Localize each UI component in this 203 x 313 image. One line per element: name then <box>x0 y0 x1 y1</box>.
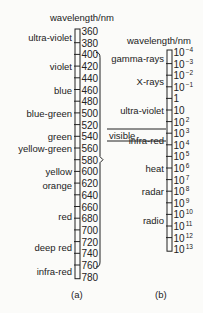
scale-a-tick-label: 500 <box>82 108 99 119</box>
scale-b-tick-label: 1 <box>174 93 180 104</box>
scale-a-tick-label: 400 <box>82 49 99 60</box>
scale-b-tick-label: 104 <box>174 139 190 151</box>
scale-b: 10−410−310−210−1110102103104105106107108… <box>111 46 193 255</box>
scale-b-tick-label: 10−2 <box>174 69 194 81</box>
scale-a-band-label: blue <box>54 85 72 96</box>
scale-b-tick-label: 102 <box>174 116 190 128</box>
spectrum-diagram: wavelength/nm wavelength/nm (a) (b) visi… <box>0 0 203 313</box>
scale-b-caption: (b) <box>155 289 167 300</box>
scale-a-tick-label: 680 <box>82 213 99 224</box>
scale-a-band-label: violet <box>50 61 73 72</box>
scale-a-tick-label: 360 <box>82 26 99 37</box>
scale-a-tick-label: 560 <box>82 143 99 154</box>
scale-b-band-label: radar <box>142 186 164 197</box>
scale-a-tick-label: 660 <box>82 202 99 213</box>
scale-b-tick-label: 103 <box>174 127 190 139</box>
scale-b-tick-label: 10−3 <box>174 58 194 70</box>
scale-b-band-label: X-rays <box>137 76 165 87</box>
scale-b-tick-label: 109 <box>174 197 190 209</box>
scale-a-band-label: deep red <box>34 242 72 253</box>
scale-a-tick-label: 720 <box>82 237 99 248</box>
scale-b-tick-label: 10−4 <box>174 46 194 58</box>
scale-b-tick-label: 105 <box>174 150 190 162</box>
scale-a-tick-label: 760 <box>82 260 99 271</box>
scale-a-tick-label: 600 <box>82 166 99 177</box>
scale-a-band-label: orange <box>42 180 72 191</box>
scale-a-tick-label: 620 <box>82 178 99 189</box>
scale-a-tick-label: 480 <box>82 96 99 107</box>
scale-a-caption: (a) <box>71 289 83 300</box>
scale-b-band-label: radio <box>143 215 164 226</box>
scale-b-tick-label: 106 <box>174 162 190 174</box>
scale-a-tick-label: 740 <box>82 248 99 259</box>
scale-a-tick-label: 440 <box>82 73 99 84</box>
scale-a-band-label: red <box>58 211 72 222</box>
scale-b-band-label: gamma-rays <box>111 53 164 64</box>
scale-a-band-label: infra-red <box>37 266 72 277</box>
scale-b-tick-label: 1010 <box>174 208 194 220</box>
scale-a-tick-label: 580 <box>82 155 99 166</box>
scale-b-band-label: heat <box>146 163 165 174</box>
scale-a-tick-label: 380 <box>82 38 99 49</box>
scale-a-tick-label: 460 <box>82 85 99 96</box>
scale-a-heading: wavelength/nm <box>49 12 114 23</box>
scale-b-tick-label: 10−1 <box>174 81 194 93</box>
scale-a-band-label: green <box>48 131 72 142</box>
scale-a-tick-label: 780 <box>82 272 99 283</box>
scale-a-tick-label: 640 <box>82 190 99 201</box>
scale-b-ladder <box>167 50 172 251</box>
scale-a-band-label: yellow <box>46 166 73 177</box>
scale-a-band-label: ultra-violet <box>28 32 72 43</box>
scale-a-tick-label: 700 <box>82 225 99 236</box>
scale-a-tick-label: 420 <box>82 61 99 72</box>
scale-b-tick-label: 1013 <box>174 243 194 255</box>
scale-b-band-label: ultra-violet <box>120 105 164 116</box>
scale-b-tick-label: 108 <box>174 185 190 197</box>
scale-b-tick-label: 107 <box>174 174 190 186</box>
scale-a-tick-label: 520 <box>82 120 99 131</box>
scale-a: 3603804004204404604805005205405605806006… <box>18 26 103 283</box>
scale-a-band-label: blue-green <box>27 108 72 119</box>
scale-b-tick-label: 10 <box>174 105 186 116</box>
scale-a-band-label: yellow-green <box>18 143 72 154</box>
scale-b-tick-label: 1012 <box>174 232 194 244</box>
scale-b-heading: wavelength/nm <box>126 35 191 46</box>
scale-b-tick-label: 1011 <box>174 220 193 232</box>
scale-a-tick-label: 540 <box>82 131 99 142</box>
